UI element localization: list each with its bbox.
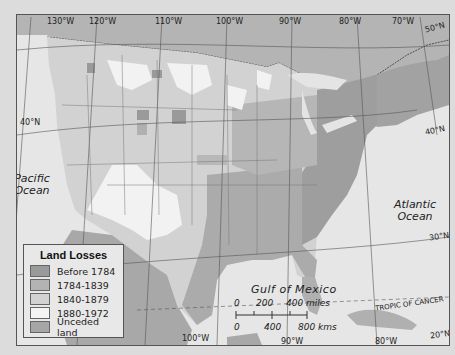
longitude-label: 110°W: [155, 18, 182, 26]
longitude-label: 90°W: [279, 18, 301, 26]
scale-km-800: 800 kms: [298, 322, 337, 332]
legend: Land Losses Before 1784 1784-1839 1840-1…: [23, 244, 124, 338]
legend-item: Before 1784: [30, 264, 117, 278]
legend-swatch: [30, 265, 50, 277]
longitude-label: 100°W: [182, 335, 209, 343]
longitude-label: 90°W: [281, 338, 303, 346]
pacific-line-2: Ocean: [16, 185, 57, 197]
legend-swatch: [30, 279, 50, 291]
longitude-label: 70°W: [392, 18, 414, 26]
longitude-label: 130°W: [47, 18, 74, 26]
legend-label: Unceded land: [57, 316, 117, 338]
scale-ticks: [234, 310, 309, 320]
atlantic-line-2: Ocean: [387, 211, 443, 223]
legend-item: Unceded land: [30, 320, 117, 334]
scale-miles-400: 400 miles: [286, 298, 330, 308]
longitude-label: 120°W: [89, 18, 116, 26]
legend-swatch: [30, 321, 50, 333]
longitude-label: 80°W: [339, 18, 361, 26]
longitude-label: 80°W: [375, 338, 397, 346]
pacific-ocean-label: Pacific Ocean: [16, 173, 57, 197]
map: 130°W 120°W 110°W 100°W 90°W 80°W 70°W 5…: [16, 14, 450, 346]
legend-title: Land Losses: [30, 249, 117, 261]
legend-swatch: [30, 307, 50, 319]
scale-miles-200: 200: [256, 298, 273, 308]
scale-km-400: 400: [264, 322, 281, 332]
longitude-label: 100°W: [216, 18, 243, 26]
scale-km-0: 0: [234, 322, 240, 332]
legend-swatch: [30, 293, 50, 305]
legend-label: Before 1784: [57, 266, 115, 277]
legend-label: 1784-1839: [57, 280, 109, 291]
latitude-label: 40°N: [20, 119, 40, 127]
legend-item: 1784-1839: [30, 278, 117, 292]
legend-label: 1840-1879: [57, 294, 109, 305]
atlantic-ocean-label: Atlantic Ocean: [387, 199, 443, 223]
legend-item: 1840-1879: [30, 292, 117, 306]
scale-bar: 0 200 400 miles 0 400 800 kms: [234, 298, 364, 338]
gulf-of-mexico-label: Gulf of Mexico: [251, 283, 337, 296]
scale-miles-0: 0: [234, 298, 240, 308]
